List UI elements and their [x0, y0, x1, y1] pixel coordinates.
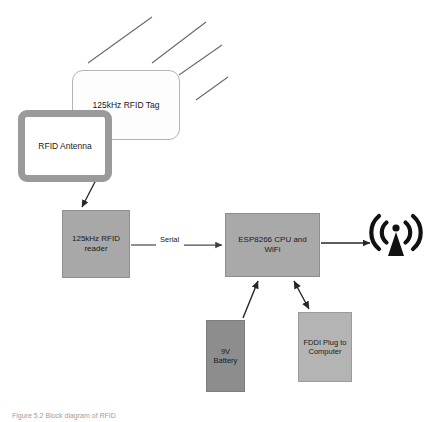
node-9v-battery: 9V Battery [206, 320, 245, 392]
node-rfid-reader: 125kHz RFID reader [62, 210, 130, 278]
node-fddi-plug: FDDI Plug to Computer [298, 312, 352, 382]
edge-cpu-to-fddi [294, 281, 309, 309]
figure-caption: Figure 5.2 Block diagram of RFID [12, 409, 212, 422]
wifi-broadcast-icon [371, 216, 420, 256]
figure-canvas: 125kHz RFID Tag RFID Antenna 125kHz RFID… [0, 0, 429, 422]
node-rfid-antenna-label: RFID Antenna [35, 141, 94, 152]
node-fddi-plug-label: FDDI Plug to Computer [301, 338, 350, 357]
node-9v-battery-label: 9V Battery [211, 347, 241, 366]
node-rfid-antenna: RFID Antenna [18, 110, 112, 182]
edge-label-serial: Serial [158, 235, 181, 244]
edge-battery-to-cpu [243, 281, 258, 318]
node-esp8266-cpu-label: ESP8266 CPU and WiFi [235, 235, 310, 255]
node-rfid-reader-label: 125kHz RFID reader [69, 234, 123, 254]
node-rfid-tag-label: 125kHz RFID Tag [90, 100, 163, 111]
node-esp8266-cpu: ESP8266 CPU and WiFi [225, 213, 320, 277]
